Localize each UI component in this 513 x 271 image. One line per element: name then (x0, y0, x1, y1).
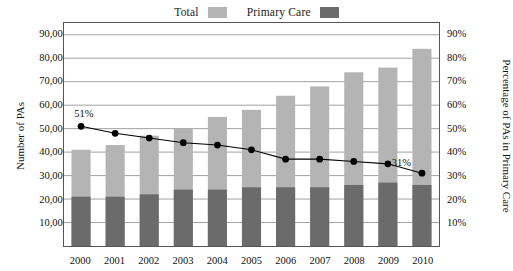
line-marker (248, 146, 255, 153)
line-value-label: 31% (392, 158, 411, 169)
legend-label-total: Total (174, 6, 198, 18)
line-value-label: 51% (74, 109, 93, 120)
y-axis-right-tick: 20% (447, 195, 466, 206)
bar-segment-primary-care (174, 190, 193, 246)
x-axis-tick: 2005 (234, 256, 268, 267)
x-axis-tick: 2004 (200, 256, 234, 267)
y-axis-right-tick: 10% (447, 218, 466, 229)
bar-segment-primary-care (412, 185, 431, 246)
x-axis-tick: 2002 (132, 256, 166, 267)
legend-item-total: Total (174, 6, 226, 18)
pa-workforce-chart: Total Primary Care Number of PAs Percent… (0, 0, 513, 271)
y-axis-left-title: Number of PAs (14, 76, 26, 196)
plot-graphics (64, 23, 439, 246)
line-marker (384, 160, 391, 167)
bar-segment-primary-care (140, 194, 159, 246)
chart-legend: Total Primary Care (0, 2, 513, 22)
y-axis-right-tick: 80% (447, 53, 466, 64)
legend-label-primary-care: Primary Care (247, 6, 311, 18)
x-axis-tick: 2006 (269, 256, 303, 267)
line-marker (146, 135, 153, 142)
y-axis-right-tick: 70% (447, 76, 466, 87)
bar-segment-primary-care (208, 190, 227, 246)
x-axis-tick: 2003 (166, 256, 200, 267)
legend-swatch-total-icon (208, 7, 227, 18)
line-marker (419, 170, 426, 177)
plot-area (63, 22, 440, 247)
bar-segment-primary-care (106, 197, 125, 246)
y-axis-right-tick: 40% (447, 147, 466, 158)
y-axis-right-tick: 90% (447, 29, 466, 40)
line-marker (112, 130, 119, 137)
x-axis-tick: 2000 (63, 256, 97, 267)
bar-segment-primary-care (242, 187, 261, 246)
y-axis-right-tick: 30% (447, 171, 466, 182)
line-marker (180, 139, 187, 146)
legend-item-primary-care: Primary Care (247, 6, 339, 18)
bar-segment-primary-care (310, 187, 329, 246)
line-marker (350, 158, 357, 165)
y-axis-right-tick: 50% (447, 124, 466, 135)
x-axis-tick: 2010 (406, 256, 440, 267)
bar-segment-primary-care (378, 183, 397, 246)
bar-segment-primary-care (72, 197, 91, 246)
legend-swatch-primary-care-icon (320, 7, 339, 18)
line-marker (282, 156, 289, 163)
line-marker (316, 156, 323, 163)
y-axis-right-title: Percentage of PAs in Primary Care (501, 41, 513, 231)
bar-segment-primary-care (276, 187, 295, 246)
x-axis-tick: 2001 (97, 256, 131, 267)
x-axis-tick: 2008 (337, 256, 371, 267)
line-marker (214, 142, 221, 149)
x-axis-tick: 2009 (371, 256, 405, 267)
y-axis-right-tick: 60% (447, 100, 466, 111)
bar-segment-primary-care (344, 185, 363, 246)
x-axis-tick: 2007 (303, 256, 337, 267)
line-marker (78, 123, 85, 130)
